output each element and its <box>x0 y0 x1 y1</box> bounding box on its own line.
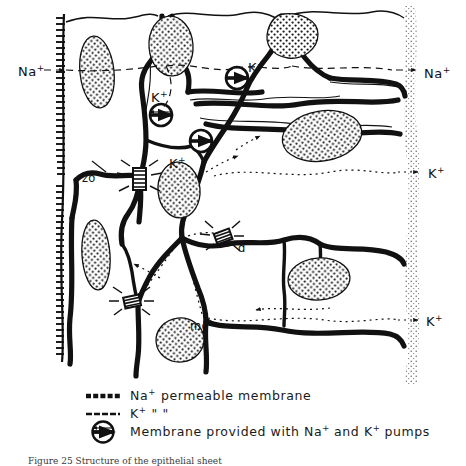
epithelium-diagram: Na+ K+ K+ K+ Na+ K+ K+ zo d <box>0 0 466 466</box>
label-mo: mo <box>190 319 209 333</box>
label-zo: zo <box>82 171 96 185</box>
pump-symbol <box>226 67 248 89</box>
figure-caption: Figure 25 Structure of the epithelial sh… <box>28 456 222 466</box>
nucleus <box>267 14 318 59</box>
pump-symbol <box>150 104 172 126</box>
legend-symbol-pump <box>92 422 114 443</box>
caption-text: Figure 25 Structure of the epithelial sh… <box>28 456 222 466</box>
figure-root: Na+ K+ K+ K+ Na+ K+ K+ zo d <box>0 0 466 466</box>
pump-symbol <box>190 130 212 152</box>
label-d: d <box>238 241 246 255</box>
legend-label-pump: Membrane provided with Na+and K+pumps <box>130 423 430 439</box>
